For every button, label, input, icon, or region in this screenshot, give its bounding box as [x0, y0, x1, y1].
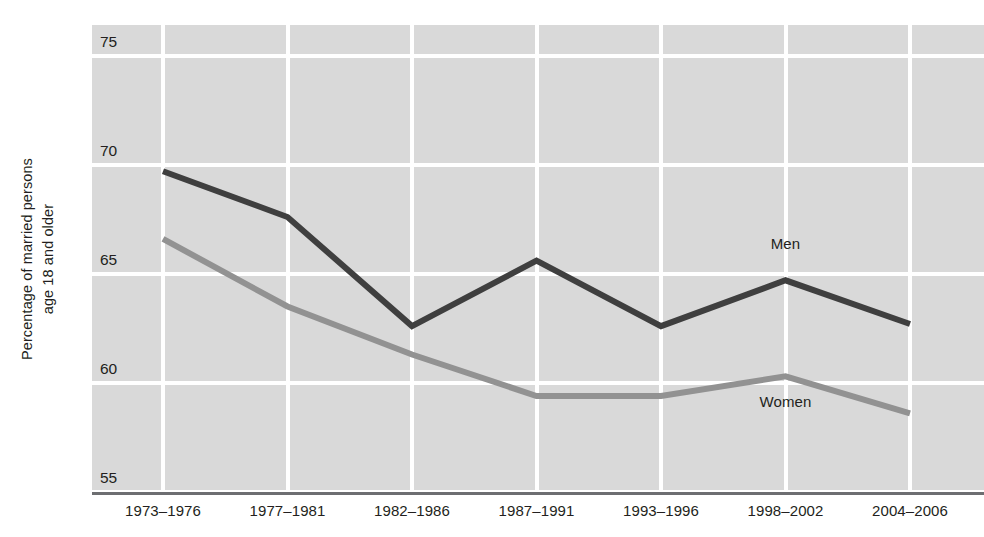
y-axis-title-line-2: age 18 and older: [38, 109, 59, 409]
plot-area: 5560657075: [92, 25, 984, 492]
series-line-women: [163, 239, 910, 414]
line-chart: Percentage of married persons age 18 and…: [0, 0, 984, 537]
y-axis-title: Percentage of married persons age 18 and…: [17, 109, 59, 409]
series-label-women: Women: [760, 393, 812, 410]
series-label-men: Men: [771, 235, 800, 252]
x-tick-label-4: 1993–1996: [623, 502, 699, 519]
x-tick-label-3: 1987–1991: [499, 502, 575, 519]
y-axis-title-line-1: Percentage of married persons: [17, 109, 38, 409]
x-tick-label-0: 1973–1976: [125, 502, 201, 519]
x-tick-label-5: 1998–2002: [748, 502, 824, 519]
x-tick-label-2: 1982–1986: [374, 502, 450, 519]
x-axis-line: [92, 492, 984, 495]
x-tick-label-6: 2004–2006: [872, 502, 948, 519]
x-tick-label-1: 1977–1981: [250, 502, 326, 519]
series-lines: [92, 25, 984, 492]
